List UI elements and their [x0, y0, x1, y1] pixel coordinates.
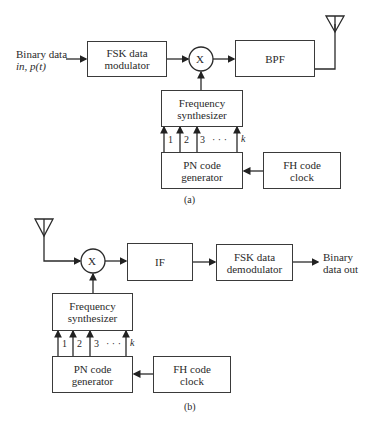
block-label: generator [181, 171, 223, 183]
fsk-modulator-block: FSK data modulator [87, 41, 167, 77]
caption-a: (a) [184, 194, 195, 205]
block-label: FSK data [234, 251, 275, 263]
freq-synth-block-b: Frequency synthesizer [52, 293, 133, 331]
block-label: IF [155, 256, 165, 268]
pn-generator-block-b: PN code generator [52, 356, 133, 393]
block-label: PN code [183, 159, 221, 171]
block-label: synthesizer [177, 109, 226, 121]
block-label: FH code [173, 363, 211, 375]
output-label-line2: data out [323, 263, 358, 275]
bus-ellipsis: · · · [106, 339, 121, 349]
fsk-demodulator-block: FSK data demodulator [216, 244, 293, 281]
block-label: FH code [283, 159, 321, 171]
block-label: Frequency [179, 97, 225, 109]
bus-label: k [241, 134, 245, 144]
bus-label: 1 [62, 339, 67, 349]
bus-label: 2 [77, 339, 82, 349]
bus-label: 2 [184, 135, 189, 145]
if-block: IF [127, 243, 193, 281]
block-label: clock [180, 375, 204, 387]
mixer-symbol-b: X [88, 255, 96, 267]
input-label-line1: Binary data [16, 48, 67, 60]
bus-label: k [130, 338, 134, 348]
block-label: clock [290, 171, 314, 183]
output-label-b: Binary data out [323, 251, 358, 275]
bus-label: 3 [94, 339, 99, 349]
output-label-line1: Binary [323, 251, 358, 263]
block-label: generator [72, 375, 114, 387]
mixer-symbol-a: X [196, 53, 204, 65]
block-label: PN code [74, 363, 112, 375]
bus-label: 1 [168, 135, 173, 145]
input-label-a: Binary data in, p(t) [16, 48, 67, 72]
bus-label: 3 [200, 135, 205, 145]
fh-clock-block-b: FH code clock [153, 356, 231, 393]
bpf-block: BPF [235, 40, 315, 77]
input-label-line2: in, p(t) [16, 60, 67, 72]
block-label: demodulator [227, 263, 283, 275]
caption-b: (b) [184, 401, 196, 412]
fh-clock-block-a: FH code clock [263, 152, 341, 189]
pn-generator-block-a: PN code generator [161, 152, 243, 189]
block-label: BPF [265, 53, 285, 65]
block-label: Frequency [69, 300, 115, 312]
block-label: modulator [104, 59, 149, 71]
freq-synth-block-a: Frequency synthesizer [161, 90, 243, 127]
block-label: FSK data [106, 47, 147, 59]
block-label: synthesizer [68, 312, 117, 324]
bus-ellipsis: · · · [212, 135, 227, 145]
